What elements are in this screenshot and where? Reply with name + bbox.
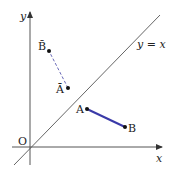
line-label: y = x (136, 38, 166, 51)
point-b-label: B (128, 122, 136, 135)
segment-ab (87, 109, 125, 127)
point-a-label: A (75, 103, 85, 116)
point-b-bar (47, 49, 51, 53)
x-axis-label: x (156, 152, 163, 165)
point-a (85, 107, 89, 111)
point-b-bar-label: B̄ (38, 40, 46, 53)
reflection-diagram: y x O y = x A B Ā B̄ (0, 0, 173, 173)
point-a-bar-label: Ā (55, 83, 65, 96)
point-b (123, 125, 127, 129)
y-axis-label: y (19, 10, 27, 23)
origin-label: O (18, 135, 27, 148)
point-a-bar (66, 86, 70, 90)
